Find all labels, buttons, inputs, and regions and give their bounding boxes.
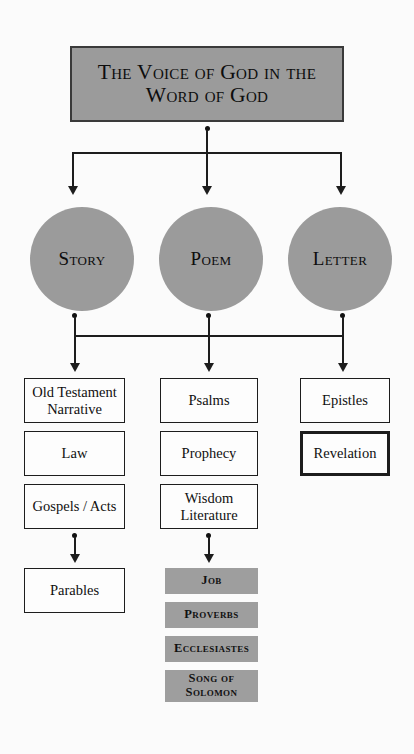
- box-law[interactable]: Law: [24, 431, 125, 476]
- box-label: Song of Solomon: [165, 672, 258, 700]
- connector-stem-poem: [208, 317, 210, 364]
- box-label: Job: [201, 574, 221, 588]
- arrowhead-poem: [202, 186, 212, 195]
- box-old-testament-narrative[interactable]: Old Testament Narrative: [24, 378, 125, 423]
- arrowhead-letter: [336, 186, 346, 195]
- box-label: Law: [58, 445, 92, 461]
- box-label: Ecclesiastes: [174, 642, 249, 656]
- circle-poem-label: Poem: [190, 248, 231, 270]
- connector-stem-letter: [342, 317, 344, 364]
- connector-stem-books: [208, 537, 210, 555]
- connector-drop-poem: [206, 152, 208, 187]
- box-parables[interactable]: Parables: [24, 568, 125, 613]
- connector-stem-title: [206, 130, 208, 152]
- box-wisdom-literature[interactable]: Wisdom Literature: [160, 484, 258, 529]
- box-label: Revelation: [310, 445, 381, 461]
- circle-poem[interactable]: Poem: [159, 207, 263, 311]
- box-gospels-acts[interactable]: Gospels / Acts: [24, 484, 125, 529]
- box-song-of-solomon[interactable]: Song of Solomon: [165, 670, 258, 702]
- box-label: Proverbs: [184, 608, 238, 622]
- arrowhead-story: [68, 186, 78, 195]
- arrowhead-books: [204, 554, 214, 563]
- box-label: Psalms: [184, 392, 233, 408]
- box-label: Parables: [46, 582, 103, 598]
- box-label: Wisdom Literature: [161, 490, 257, 522]
- box-ecclesiastes[interactable]: Ecclesiastes: [165, 636, 258, 662]
- box-epistles[interactable]: Epistles: [300, 378, 390, 423]
- circle-letter[interactable]: Letter: [288, 207, 392, 311]
- box-revelation[interactable]: Revelation: [300, 431, 390, 476]
- connector-stem-parables: [74, 537, 76, 555]
- arrowhead-col-poem: [204, 363, 214, 372]
- box-label: Gospels / Acts: [29, 498, 121, 514]
- circle-story-label: Story: [58, 248, 105, 270]
- box-prophecy[interactable]: Prophecy: [160, 431, 258, 476]
- box-job[interactable]: Job: [165, 568, 258, 594]
- connector-stem-story: [74, 317, 76, 364]
- box-label: Prophecy: [178, 445, 241, 461]
- arrowhead-parables: [70, 554, 80, 563]
- box-label: Epistles: [318, 392, 372, 408]
- title-banner: The Voice of God in the Word of God: [70, 46, 344, 122]
- circle-letter-label: Letter: [313, 248, 367, 270]
- page-title: The Voice of God in the Word of God: [72, 61, 342, 107]
- box-psalms[interactable]: Psalms: [160, 378, 258, 423]
- connector-drop-letter: [340, 152, 342, 187]
- connector-drop-story: [72, 152, 74, 187]
- diagram-canvas: The Voice of God in the Word of God Stor…: [0, 0, 414, 754]
- box-proverbs[interactable]: Proverbs: [165, 602, 258, 628]
- connector-bus-columns: [74, 335, 344, 337]
- arrowhead-col-letter: [338, 363, 348, 372]
- arrowhead-col-story: [70, 363, 80, 372]
- box-label: Old Testament Narrative: [25, 384, 124, 416]
- circle-story[interactable]: Story: [30, 207, 134, 311]
